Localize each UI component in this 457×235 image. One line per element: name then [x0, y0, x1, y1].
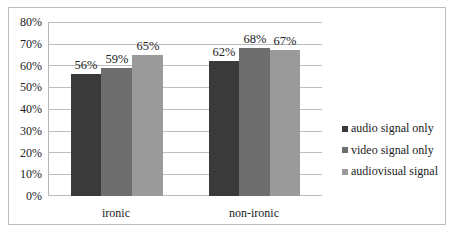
legend-label: video signal only	[351, 143, 434, 158]
y-tick-30: 30%	[6, 125, 42, 137]
bar-nonironic-video	[239, 48, 270, 196]
bar-ironic-audiovisual	[132, 55, 163, 196]
legend-label: audio signal only	[351, 121, 434, 136]
y-tick-60: 60%	[6, 60, 42, 72]
legend-item-audio: audio signal only	[342, 118, 438, 140]
legend-label: audiovisual signal	[351, 164, 438, 179]
value-label-ironic-video: 59%	[97, 53, 137, 66]
y-tick-20: 20%	[6, 147, 42, 159]
legend-item-video: video signal only	[342, 140, 438, 162]
bar-nonironic-audio	[209, 61, 239, 196]
legend: audio signal only video signal only audi…	[342, 118, 438, 183]
bar-nonironic-audiovisual	[270, 50, 300, 196]
legend-swatch-icon	[342, 126, 348, 132]
plot-area: 56% 59% 65% 62% 68% 67%	[48, 22, 322, 196]
value-label-ironic-audiovisual: 65%	[128, 40, 168, 53]
y-tick-0: 0%	[6, 190, 42, 202]
y-tick-70: 70%	[6, 38, 42, 50]
legend-swatch-icon	[342, 147, 348, 153]
legend-swatch-icon	[342, 169, 348, 175]
y-tick-40: 40%	[6, 103, 42, 115]
value-label-nonironic-audiovisual: 67%	[265, 35, 305, 48]
y-tick-50: 50%	[6, 81, 42, 93]
x-category-ironic: ironic	[56, 206, 176, 221]
x-category-non-ironic: non-ironic	[194, 206, 314, 221]
y-tick-10: 10%	[6, 168, 42, 180]
legend-item-audiovisual: audiovisual signal	[342, 161, 438, 183]
value-label-nonironic-audio: 62%	[204, 46, 244, 59]
gridline-80	[48, 22, 322, 23]
bar-ironic-audio	[71, 74, 101, 196]
bar-ironic-video	[101, 68, 132, 196]
y-tick-80: 80%	[6, 16, 42, 28]
